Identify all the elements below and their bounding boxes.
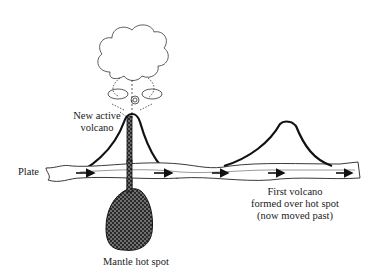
hotspot-label: Mantle hot spot [96,256,176,268]
old-volcano [224,122,332,166]
mantle-hot-spot [106,189,153,251]
first-volcano-label: First volcano formed over hot spot (now … [240,186,350,222]
eruption-cloud [98,25,168,104]
new-volcano-label: New active volcano [62,110,132,134]
conduit-through-plate [127,160,132,192]
plate-label: Plate [18,166,39,178]
hotspot-diagram [0,0,384,275]
